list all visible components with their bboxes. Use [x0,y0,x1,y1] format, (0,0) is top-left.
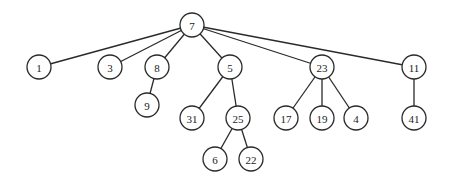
node-label: 41 [409,113,420,125]
tree-node-6: 6 [203,147,227,171]
node-label: 7 [189,20,195,32]
node-label: 8 [154,62,160,74]
node-label: 4 [353,113,359,125]
node-label: 1 [36,62,42,74]
tree-node-19: 19 [310,106,334,130]
tree-node-7: 7 [180,13,204,37]
node-label: 22 [246,154,257,166]
tree-node-31: 31 [180,106,204,130]
tree-node-5: 5 [218,55,242,79]
tree-diagram: 713852311931251719441622 [0,0,450,186]
node-label: 9 [144,100,150,112]
tree-node-25: 25 [226,106,250,130]
node-label: 17 [281,113,293,125]
node-label: 25 [233,113,245,125]
tree-node-23: 23 [310,55,334,79]
tree-node-22: 22 [239,147,263,171]
tree-node-1: 1 [27,55,51,79]
tree-canvas: 713852311931251719441622 [0,0,450,186]
edges-layer [39,25,414,159]
tree-node-8: 8 [145,55,169,79]
tree-node-41: 41 [402,106,426,130]
tree-node-9: 9 [135,93,159,117]
tree-node-11: 11 [402,55,426,79]
node-label: 5 [227,62,233,74]
node-label: 11 [409,62,420,74]
node-label: 23 [317,62,329,74]
node-label: 19 [317,113,329,125]
node-label: 6 [212,154,218,166]
node-label: 31 [187,113,198,125]
node-label: 3 [107,62,113,74]
tree-node-3: 3 [98,55,122,79]
tree-node-4: 4 [344,106,368,130]
tree-node-17: 17 [274,106,298,130]
